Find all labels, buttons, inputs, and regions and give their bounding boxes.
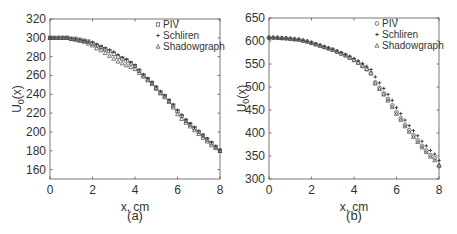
legend-marker-shadowgraph xyxy=(375,44,379,48)
y-tick-label: 240 xyxy=(26,87,46,101)
y-tick-label: 220 xyxy=(26,106,46,120)
data-point xyxy=(112,57,116,61)
data-point xyxy=(420,140,423,143)
series-shadowgraph xyxy=(48,36,222,153)
data-point xyxy=(104,46,107,49)
data-point xyxy=(395,106,398,109)
chart-a: 02468160180200220240260280300320x, cmU0(… xyxy=(0,0,230,234)
data-point xyxy=(108,54,112,58)
legend-label-piv: PIV xyxy=(163,19,179,30)
y-tick-label: 650 xyxy=(245,11,265,25)
series-piv xyxy=(48,36,221,152)
legend-marker-schliren xyxy=(156,34,159,37)
chart-b-svg: 02468300350400450500550600650x, cmU0(x)(… xyxy=(230,0,457,234)
data-point xyxy=(408,124,411,127)
x-tick-label: 2 xyxy=(89,183,96,197)
y-tick-label: 160 xyxy=(26,163,46,177)
chart-caption: (a) xyxy=(127,208,143,223)
legend: PIVSchlirenShadowgraph xyxy=(375,18,444,51)
data-point xyxy=(121,56,124,59)
data-point xyxy=(437,159,440,162)
data-point xyxy=(116,59,120,63)
data-point xyxy=(129,65,133,69)
series-shadowgraph xyxy=(267,35,441,167)
data-point xyxy=(120,61,124,65)
series-schliren xyxy=(267,36,440,162)
data-point xyxy=(386,93,389,96)
data-point xyxy=(108,48,111,51)
data-point xyxy=(374,75,377,78)
data-point xyxy=(125,58,128,61)
y-tick-label: 260 xyxy=(26,68,46,82)
data-point xyxy=(378,81,381,84)
y-tick-label: 550 xyxy=(245,57,265,71)
legend-label-schliren: Schliren xyxy=(163,30,199,41)
data-point xyxy=(412,129,415,132)
y-tick-label: 350 xyxy=(245,149,265,163)
data-point xyxy=(433,152,436,155)
x-tick-label: 4 xyxy=(351,183,358,197)
data-point xyxy=(112,50,115,53)
y-tick-label: 300 xyxy=(26,31,46,45)
data-point xyxy=(103,51,107,55)
x-tick-label: 4 xyxy=(132,183,139,197)
legend-marker-shadowgraph xyxy=(156,45,160,49)
chart-b: 02468300350400450500550600650x, cmU0(x)(… xyxy=(230,0,457,234)
legend-label-piv: PIV xyxy=(382,18,398,29)
data-point xyxy=(382,87,385,90)
series-piv xyxy=(267,36,441,168)
legend: PIVSchlirenShadowgraph xyxy=(156,19,225,52)
y-tick-label: 280 xyxy=(26,50,46,64)
data-point xyxy=(429,149,432,152)
legend-marker-piv xyxy=(375,22,379,26)
y-tick-label: 320 xyxy=(26,12,46,26)
data-point xyxy=(416,134,419,137)
y-tick-label: 400 xyxy=(245,126,265,140)
y-tick-label: 600 xyxy=(245,34,265,48)
x-tick-label: 8 xyxy=(217,183,224,197)
x-tick-label: 8 xyxy=(436,183,443,197)
legend-marker-piv xyxy=(156,23,159,26)
data-point xyxy=(425,144,428,147)
x-tick-label: 0 xyxy=(266,183,273,197)
y-tick-label: 200 xyxy=(26,125,46,139)
data-point xyxy=(116,53,119,56)
legend-label-schliren: Schliren xyxy=(382,29,418,40)
y-tick-label: 300 xyxy=(245,172,265,186)
data-point xyxy=(391,99,394,102)
x-tick-label: 0 xyxy=(47,183,54,197)
legend-label-shadowgraph: Shadowgraph xyxy=(382,40,444,51)
data-point xyxy=(403,118,406,121)
x-tick-label: 2 xyxy=(308,183,315,197)
legend-label-shadowgraph: Shadowgraph xyxy=(163,41,225,52)
data-point xyxy=(399,112,402,115)
y-axis-label: U0(x) xyxy=(235,85,251,113)
y-axis-label: U0(x) xyxy=(10,85,26,113)
series-schliren xyxy=(48,36,221,151)
x-tick-label: 6 xyxy=(174,183,181,197)
data-point xyxy=(129,61,132,64)
chart-a-svg: 02468160180200220240260280300320x, cmU0(… xyxy=(0,0,230,234)
chart-caption: (b) xyxy=(346,208,362,223)
x-tick-label: 6 xyxy=(393,183,400,197)
data-point xyxy=(125,63,129,67)
legend-marker-schliren xyxy=(375,33,378,36)
y-tick-label: 180 xyxy=(26,144,46,158)
